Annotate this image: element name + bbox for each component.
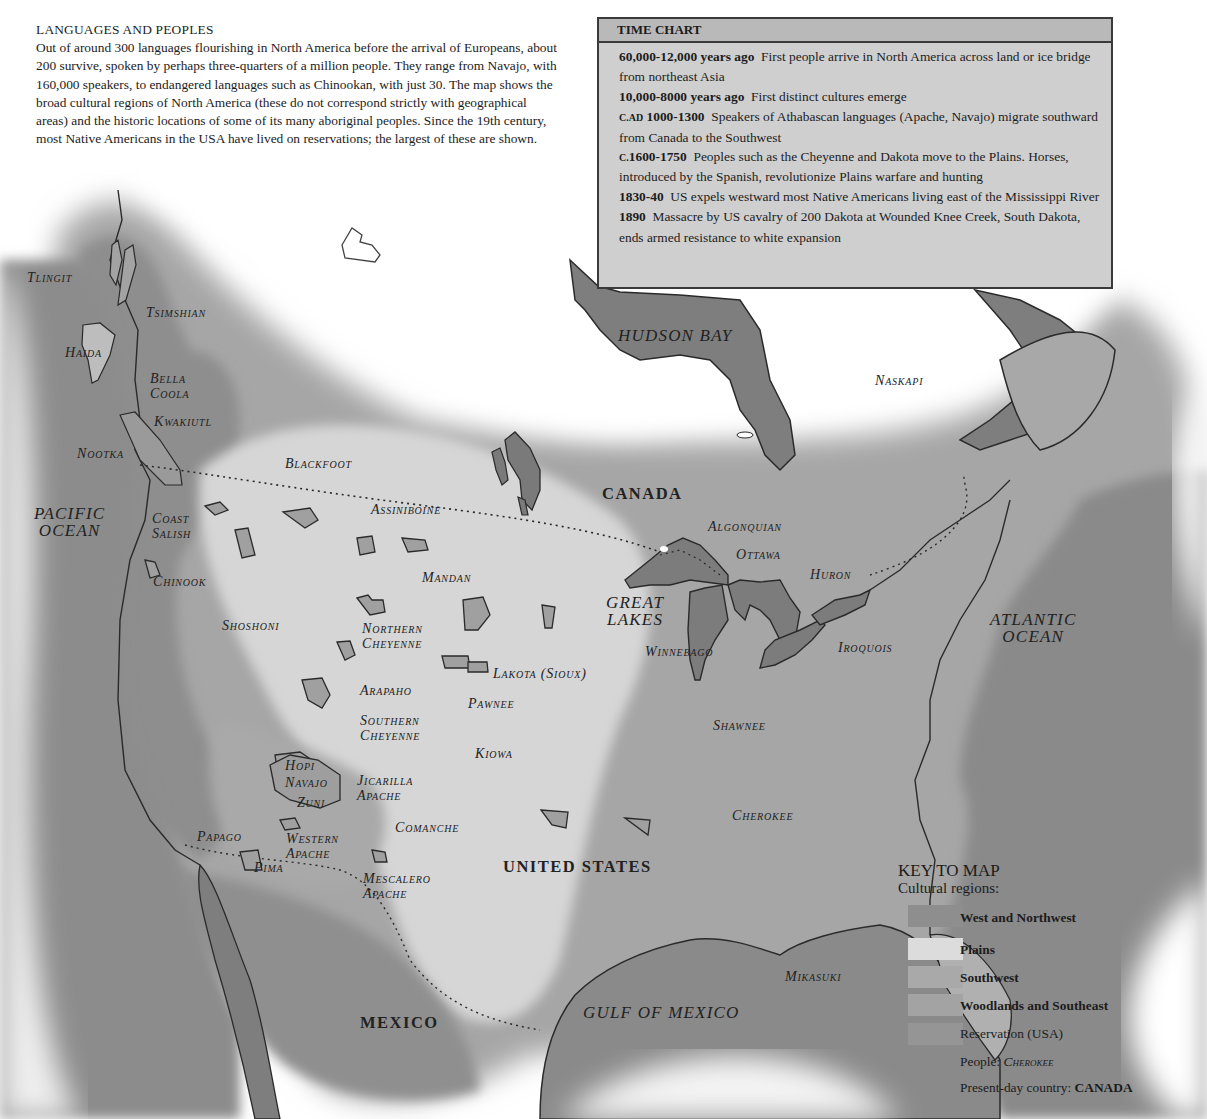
intro-block: LANGUAGES AND PEOPLES Out of around 300 … [36, 21, 561, 148]
label-hudson-bay: HUDSON BAY [618, 327, 732, 344]
label-gulf-of-mexico: GULF OF MEXICO [583, 1004, 740, 1021]
map-key: KEY TO MAP Cultural regions: West and No… [898, 862, 1198, 897]
time-chart-entries: 60,000-12,000 years ago First people arr… [599, 43, 1111, 247]
people-northern-cheyenne: Northern Cheyenne [362, 621, 423, 651]
people-zuni: Zuni [297, 795, 325, 810]
key-item-woodlands-southeast: Woodlands and Southeast [960, 998, 1108, 1014]
people-huron: Huron [810, 567, 851, 582]
swatch-woodlands-southeast [908, 994, 963, 1016]
label-pacific-ocean: PACIFIC OCEAN [34, 505, 105, 539]
people-winnebago: Winnebago [645, 644, 713, 659]
people-western-apache: Western Apache [286, 831, 339, 861]
people-shoshoni: Shoshoni [222, 618, 279, 633]
people-mandan: Mandan [422, 570, 471, 585]
time-chart-entry: 10,000-8000 years ago First distinct cul… [619, 87, 1101, 107]
swatch-plains [908, 938, 963, 960]
people-kwakiutl: Kwakiutl [154, 414, 212, 429]
people-papago: Papago [197, 829, 242, 844]
people-algonquian: Algonquian [708, 519, 782, 534]
people-haida: Haida [65, 345, 102, 360]
time-chart-box: TIME CHART 60,000-12,000 years ago First… [597, 17, 1113, 289]
people-mikasuki: Mikasuki [785, 969, 841, 984]
swatch-west-northwest [908, 905, 963, 927]
label-united-states: UNITED STATES [503, 859, 652, 874]
intro-body: Out of around 300 languages flourishing … [36, 39, 561, 148]
label-great-lakes: GREAT LAKES [606, 594, 664, 628]
people-naskapi: Naskapi [875, 373, 923, 388]
people-assiniboine: Assiniboine [371, 502, 441, 517]
key-title: KEY TO MAP [898, 862, 1198, 880]
key-subtitle: Cultural regions: [898, 880, 1198, 897]
intro-title: LANGUAGES AND PEOPLES [36, 21, 561, 39]
people-comanche: Comanche [395, 820, 459, 835]
label-atlantic-ocean: ATLANTIC OCEAN [990, 611, 1076, 645]
key-item-country: Present-day country: CANADA [960, 1080, 1133, 1096]
people-arapaho: Arapaho [360, 683, 412, 698]
key-item-southwest: Southwest [960, 970, 1019, 986]
people-blackfoot: Blackfoot [285, 456, 352, 471]
people-shawnee: Shawnee [713, 718, 766, 733]
key-item-reservation: Reservation (USA) [960, 1026, 1063, 1042]
swatch-southwest [908, 966, 963, 988]
people-cherokee: Cherokee [732, 808, 793, 823]
people-hopi: Hopi [285, 758, 315, 773]
people-tlingit: Tlingit [27, 270, 72, 285]
people-coast-salish: Coast Salish [152, 511, 191, 541]
people-pima: Pima [254, 860, 284, 875]
people-navajo: Navajo [285, 775, 328, 790]
label-canada: CANADA [602, 486, 683, 501]
people-pawnee: Pawnee [468, 696, 514, 711]
swatch-reservation [908, 1023, 963, 1045]
time-chart-entry: 60,000-12,000 years ago First people arr… [619, 47, 1101, 87]
time-chart-entry: 1890 Massacre by US cavalry of 200 Dakot… [619, 207, 1101, 247]
people-nootka: Nootka [77, 446, 124, 461]
people-chinook: Chinook [153, 574, 206, 589]
people-iroquois: Iroquois [838, 640, 892, 655]
time-chart-entry: C.1600-1750 Peoples such as the Cheyenne… [619, 147, 1101, 187]
people-lakota-sioux: Lakota (Sioux) [493, 666, 587, 681]
key-item-plains: Plains [960, 942, 995, 958]
label-mexico: MEXICO [360, 1015, 439, 1030]
people-kiowa: Kiowa [475, 746, 513, 761]
people-jicarilla-apache: Jicarilla Apache [357, 773, 413, 803]
people-bella-coola: Bella Coola [150, 371, 189, 401]
people-southern-cheyenne: Southern Cheyenne [360, 713, 420, 743]
people-mescalero-apache: Mescalero Apache [363, 871, 431, 901]
time-chart-entry: C.AD 1000-1300 Speakers of Athabascan la… [619, 107, 1101, 147]
people-tsimshian: Tsimshian [146, 305, 206, 320]
time-chart-title: TIME CHART [599, 19, 1111, 43]
time-chart-entry: 1830-40 US expels westward most Native A… [619, 187, 1101, 207]
key-item-people: People: Cherokee [960, 1054, 1053, 1070]
people-ottawa: Ottawa [736, 547, 781, 562]
key-item-west-northwest: West and Northwest [960, 910, 1076, 926]
